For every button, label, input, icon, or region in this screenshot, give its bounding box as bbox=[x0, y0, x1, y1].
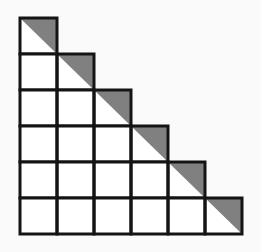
grid-rows bbox=[20, 18, 242, 234]
grid-row bbox=[20, 162, 205, 198]
grid-cell bbox=[57, 162, 94, 198]
grid-cell bbox=[94, 198, 131, 234]
grid-cell bbox=[131, 198, 168, 234]
grid-cell bbox=[94, 162, 131, 198]
grid-cell bbox=[168, 198, 205, 234]
grid-cell bbox=[20, 90, 57, 126]
grid-row bbox=[20, 90, 131, 126]
grid-cell bbox=[57, 198, 94, 234]
grid-cell bbox=[20, 198, 57, 234]
grid-cell bbox=[20, 126, 57, 162]
grid-cell bbox=[20, 54, 57, 90]
grid-row bbox=[20, 54, 94, 90]
grid-cell bbox=[57, 126, 94, 162]
grid-cell bbox=[94, 126, 131, 162]
grid-row bbox=[20, 18, 57, 54]
grid-cell bbox=[20, 162, 57, 198]
grid-cell bbox=[57, 90, 94, 126]
grid-row bbox=[20, 198, 242, 234]
staircase-grid-figure bbox=[0, 0, 261, 252]
grid-row bbox=[20, 126, 168, 162]
grid-cell bbox=[131, 162, 168, 198]
